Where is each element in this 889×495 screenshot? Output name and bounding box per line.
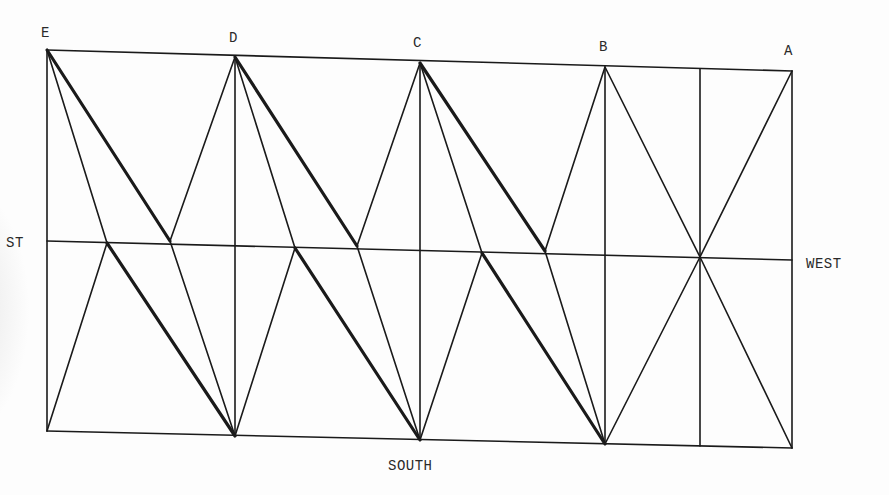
segment-m3-b1 [235,248,295,436]
segment-E-m1 [47,50,107,243]
segment-m5-b2 [420,253,482,440]
segment-B-m7 [605,67,700,257]
segment-D-m2 [170,57,235,241]
segment-C-m4 [357,63,420,246]
point-label-d: D [229,31,238,45]
segment-B-m6 [545,67,605,251]
segment-C-m6 [420,63,545,251]
thick-lines [47,50,605,444]
thin-lines [47,50,792,448]
segment-m1-b0 [47,243,107,431]
segment-m6-b3 [545,251,605,444]
point-label-b: B [599,40,608,54]
diagram-canvas: E D C B A ST WEST SOUTH [0,0,889,495]
direction-label-left: ST [6,236,24,250]
segment-m1-b1 [107,243,235,436]
direction-label-west: WEST [806,257,842,271]
segment-m7-b4 [700,257,792,448]
segment-D-m4 [235,57,357,246]
segment-C-m5 [420,63,482,253]
segment-m2-b1 [170,241,235,436]
segment-A-m7 [700,71,792,257]
segment-E-m2 [47,50,170,241]
point-label-a: A [784,44,793,58]
segment-m7-b3 [605,257,700,444]
segment-m4-b2 [357,246,420,440]
direction-label-south: SOUTH [388,459,433,473]
point-label-c: C [413,36,422,50]
segment-m3-b2 [295,248,420,440]
truss-diagram [0,0,889,495]
point-label-e: E [41,26,50,40]
segment-m5-b3 [482,253,605,444]
segment-D-m3 [235,57,295,248]
